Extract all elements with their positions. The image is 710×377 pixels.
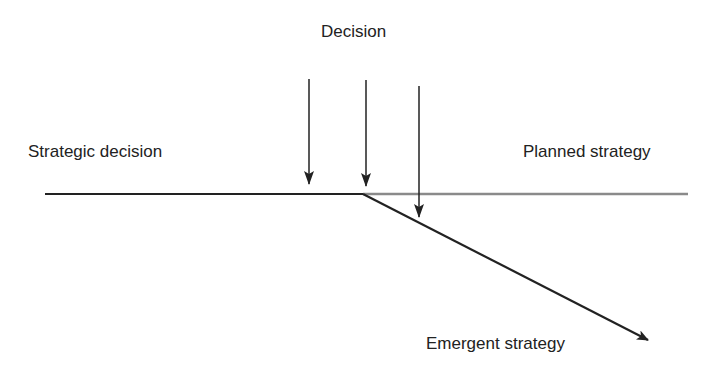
decision-label: Decision (321, 22, 386, 42)
strategy-diagram: Decision Strategic decision Planned stra… (0, 0, 710, 377)
diagram-svg (0, 0, 710, 377)
planned-strategy-label: Planned strategy (523, 142, 651, 162)
emergent-strategy-arrow (363, 194, 648, 340)
emergent-strategy-label: Emergent strategy (426, 334, 565, 354)
strategic-decision-label: Strategic decision (28, 142, 162, 162)
